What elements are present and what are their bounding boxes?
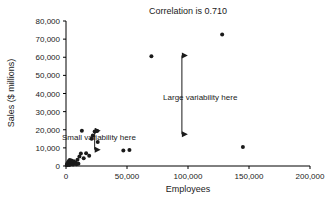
scatter-chart-figure: Correlation is 0.710 010,00020,00030,000… xyxy=(0,0,326,205)
y-tick-label: 40,000 xyxy=(36,90,61,99)
annotation-label: Small variability here xyxy=(62,133,136,142)
chart-title: Correlation is 0.710 xyxy=(149,6,227,16)
y-axis-ticks: 010,00020,00030,00040,00050,00060,00070,… xyxy=(36,17,66,171)
x-tick-label: 100,000 xyxy=(174,172,203,181)
data-point xyxy=(220,33,224,37)
y-tick-label: 10,000 xyxy=(36,144,61,153)
data-point xyxy=(82,156,86,160)
chart-annotations: Small variability hereLarge variability … xyxy=(62,55,238,149)
x-axis-ticks: 050,000100,000150,000200,000 xyxy=(64,166,325,181)
x-tick-label: 150,000 xyxy=(235,172,264,181)
data-point xyxy=(149,54,153,58)
y-tick-label: 80,000 xyxy=(36,17,61,26)
y-tick-label: 70,000 xyxy=(36,35,61,44)
data-point xyxy=(127,148,131,152)
y-axis-label: Sales ($ millions) xyxy=(6,59,16,128)
y-tick-label: 30,000 xyxy=(36,108,61,117)
data-point xyxy=(121,149,125,153)
y-tick-label: 50,000 xyxy=(36,71,61,80)
data-point xyxy=(87,154,91,158)
x-tick-label: 200,000 xyxy=(296,172,325,181)
x-axis-label: Employees xyxy=(166,184,211,194)
chart-svg: Correlation is 0.710 010,00020,00030,000… xyxy=(0,0,326,205)
y-tick-label: 0 xyxy=(56,162,61,171)
y-tick-label: 60,000 xyxy=(36,53,61,62)
data-point xyxy=(241,145,245,149)
data-point xyxy=(79,151,83,155)
data-point xyxy=(84,151,88,155)
chart-title-group: Correlation is 0.710 xyxy=(149,6,227,16)
x-tick-label: 0 xyxy=(64,172,69,181)
x-tick-label: 50,000 xyxy=(115,172,140,181)
y-tick-label: 20,000 xyxy=(36,126,61,135)
data-point xyxy=(76,162,80,166)
annotation-label: Large variability here xyxy=(163,93,238,102)
